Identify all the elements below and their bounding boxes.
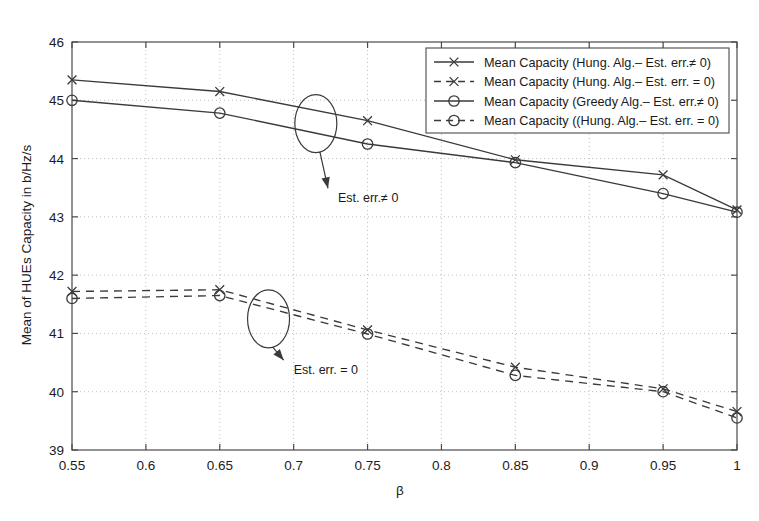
x-tick-label: 0.75: [354, 458, 380, 473]
figure-container: 0.550.60.650.70.750.80.850.90.9513940414…: [0, 0, 759, 521]
x-tick-label: 0.65: [207, 458, 233, 473]
y-tick-label: 42: [49, 268, 64, 283]
chart-canvas: 0.550.60.650.70.750.80.850.90.9513940414…: [0, 0, 759, 521]
y-tick-label: 39: [49, 443, 64, 458]
y-tick-label: 46: [49, 35, 64, 50]
x-tick-label: 0.9: [580, 458, 599, 473]
x-axis-label: β: [396, 483, 404, 498]
y-tick-label: 44: [49, 152, 65, 167]
legend: Mean Capacity (Hung. Alg.– Est. err.≠ 0)…: [426, 48, 729, 133]
y-tick-label: 41: [49, 326, 64, 341]
y-tick-label: 45: [49, 93, 64, 108]
series-line: [72, 296, 737, 418]
chart-annotations: Est. err.≠ 0Est. err. = 0: [248, 95, 399, 378]
y-tick-label: 40: [49, 385, 64, 400]
x-tick-label: 0.8: [432, 458, 451, 473]
x-tick-label: 0.95: [650, 458, 676, 473]
x-tick-label: 0.6: [136, 458, 155, 473]
y-tick-label: 43: [49, 210, 64, 225]
legend-label: Mean Capacity (Hung. Alg.– Est. err. = 0…: [484, 75, 715, 89]
legend-label: Mean Capacity (Greedy Alg.– Est. err.≠ 0…: [484, 95, 719, 109]
y-axis-label: Mean of HUEs Capacity in b/Hz/s: [19, 145, 34, 346]
series-3: [67, 290, 742, 423]
series-line: [72, 290, 737, 412]
x-tick-label: 0.85: [502, 458, 528, 473]
x-tick-label: 1: [733, 458, 741, 473]
legend-label: Mean Capacity (Hung. Alg.– Est. err.≠ 0): [484, 56, 711, 70]
annotation-arrow-head: [273, 349, 283, 360]
legend-label: Mean Capacity ((Hung. Alg.– Est. err. = …: [484, 114, 719, 128]
annotation-ellipse: [248, 290, 290, 348]
annotation-label: Est. err.≠ 0: [338, 191, 398, 205]
annotation-ellipse: [295, 95, 337, 153]
x-tick-label: 0.55: [59, 458, 85, 473]
series-1: [68, 285, 742, 416]
annotation-label: Est. err. = 0: [294, 363, 358, 377]
annotation-arrow-head: [322, 177, 330, 189]
x-tick-label: 0.7: [284, 458, 303, 473]
